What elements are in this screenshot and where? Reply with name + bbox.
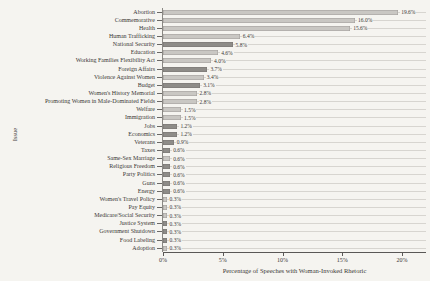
category-label: Women's History Memorial bbox=[2, 90, 155, 97]
bar-dark bbox=[163, 67, 207, 72]
plot-cell: 15.6% bbox=[162, 24, 427, 32]
category-label: Abortion bbox=[2, 9, 155, 16]
plot-cell: 0.3% bbox=[162, 220, 427, 228]
row-guide-line bbox=[163, 240, 426, 241]
category-label: Justice System bbox=[2, 220, 155, 227]
category-label: Pay Equity bbox=[2, 204, 155, 211]
value-label: 3.7% bbox=[209, 66, 222, 72]
plot-cell: 0.3% bbox=[162, 228, 427, 236]
plot-cell: 6.4% bbox=[162, 32, 427, 40]
category-label: Economics bbox=[2, 131, 155, 138]
chart-row: Foreign Affairs3.7% bbox=[2, 65, 427, 73]
row-guide-line bbox=[163, 166, 426, 167]
chart-row: Health15.6% bbox=[2, 24, 427, 32]
x-axis-tick bbox=[402, 253, 403, 256]
plot-cell: 0.3% bbox=[162, 195, 427, 203]
value-label: 0.6% bbox=[172, 147, 185, 153]
plot-cell: 0.6% bbox=[162, 163, 427, 171]
row-guide-line bbox=[163, 223, 426, 224]
value-label: 0.6% bbox=[172, 180, 185, 186]
category-label: Immigration bbox=[2, 114, 155, 121]
value-label: 0.6% bbox=[172, 172, 185, 178]
bar-light bbox=[163, 50, 218, 55]
plot-cell: 0.6% bbox=[162, 171, 427, 179]
chart-row: Working Families Flexibility Act4.0% bbox=[2, 57, 427, 65]
value-label: 2.8% bbox=[199, 99, 212, 105]
chart-row: Immigration1.5% bbox=[2, 114, 427, 122]
row-guide-line bbox=[163, 199, 426, 200]
x-axis-tick bbox=[163, 253, 164, 256]
chart-row: Party Politics0.6% bbox=[2, 171, 427, 179]
chart-row: Human Trafficking6.4% bbox=[2, 32, 427, 40]
row-guide-line bbox=[163, 215, 426, 216]
chart-row: Pay Equity0.3% bbox=[2, 203, 427, 211]
category-label: Violence Against Women bbox=[2, 74, 155, 81]
category-label: National Security bbox=[2, 41, 155, 48]
row-guide-line bbox=[163, 183, 426, 184]
category-label: Promoting Women in Male-Dominated Fields bbox=[2, 98, 155, 105]
category-label: Education bbox=[2, 49, 155, 56]
plot-cell: 2.8% bbox=[162, 98, 427, 106]
chart-row: Medicare/Social Security0.3% bbox=[2, 212, 427, 220]
value-label: 19.6% bbox=[400, 9, 416, 15]
category-label: Foreign Affairs bbox=[2, 66, 155, 73]
x-axis-tick bbox=[283, 253, 284, 256]
bar-dark bbox=[163, 140, 174, 145]
value-label: 0.3% bbox=[169, 245, 182, 251]
category-label: Adoption bbox=[2, 245, 155, 252]
bar-dark bbox=[163, 238, 167, 243]
category-label: Health bbox=[2, 25, 155, 32]
row-guide-line bbox=[163, 117, 426, 118]
value-label: 2.8% bbox=[199, 90, 212, 96]
bar-light bbox=[163, 91, 197, 96]
plot-cell: 3.7% bbox=[162, 65, 427, 73]
category-label: Guns bbox=[2, 180, 155, 187]
x-tick-label: 0% bbox=[159, 257, 167, 264]
chart-row: Commemorative16.0% bbox=[2, 16, 427, 24]
category-label: Medicare/Social Security bbox=[2, 212, 155, 219]
chart-row: Food Labeling0.3% bbox=[2, 236, 427, 244]
value-label: 1.2% bbox=[179, 123, 192, 129]
category-label: Energy bbox=[2, 188, 155, 195]
plot-cell: 0.3% bbox=[162, 236, 427, 244]
category-label: Working Families Flexibility Act bbox=[2, 57, 155, 64]
value-label: 3.1% bbox=[202, 82, 215, 88]
bar-dark bbox=[163, 83, 200, 88]
chart-row: Budget3.1% bbox=[2, 81, 427, 89]
chart-row: Education4.6% bbox=[2, 49, 427, 57]
bar-dark bbox=[163, 124, 177, 129]
value-label: 0.3% bbox=[169, 204, 182, 210]
chart-row: Justice System0.3% bbox=[2, 220, 427, 228]
chart-row: Energy0.6% bbox=[2, 187, 427, 195]
plot-cell: 0.6% bbox=[162, 146, 427, 154]
chart-row: Guns0.6% bbox=[2, 179, 427, 187]
row-guide-line bbox=[163, 150, 426, 151]
bar-light bbox=[163, 75, 204, 80]
value-label: 16.0% bbox=[357, 17, 373, 23]
bar-light bbox=[163, 58, 211, 63]
bar-dark bbox=[163, 164, 170, 169]
value-label: 0.3% bbox=[169, 221, 182, 227]
bar-light bbox=[163, 246, 167, 251]
plot-cell: 16.0% bbox=[162, 16, 427, 24]
bar-light bbox=[163, 213, 167, 218]
plot-cell: 2.8% bbox=[162, 89, 427, 97]
bar-dark bbox=[163, 189, 170, 194]
plot-cell: 4.0% bbox=[162, 57, 427, 65]
bar-light bbox=[163, 18, 355, 23]
bar-dark bbox=[163, 181, 170, 186]
x-tick-label: 10% bbox=[277, 257, 288, 264]
plot-cell: 1.5% bbox=[162, 106, 427, 114]
bar-dark bbox=[163, 132, 177, 137]
x-axis-tick bbox=[342, 253, 343, 256]
row-guide-line bbox=[163, 134, 426, 135]
bar-light bbox=[163, 99, 197, 104]
bar-light bbox=[163, 205, 167, 210]
bar-dark bbox=[163, 148, 170, 153]
value-label: 0.3% bbox=[169, 229, 182, 235]
row-guide-line bbox=[163, 191, 426, 192]
bar-light bbox=[163, 156, 170, 161]
x-axis: 0%5%10%15%20% bbox=[163, 252, 426, 253]
plot-cell: 3.4% bbox=[162, 73, 427, 81]
value-label: 0.3% bbox=[169, 196, 182, 202]
